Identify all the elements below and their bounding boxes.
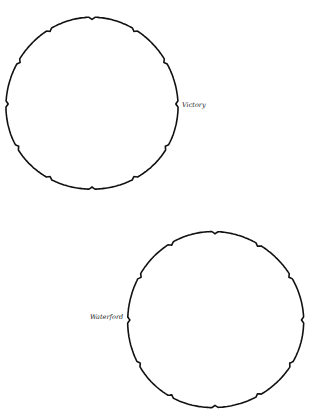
waterford-boundary [128, 232, 304, 408]
victory-label: Victory [182, 102, 206, 109]
victory-boundary [6, 17, 178, 189]
map-canvas [0, 0, 310, 411]
waterford-label: Waterford [90, 314, 123, 321]
